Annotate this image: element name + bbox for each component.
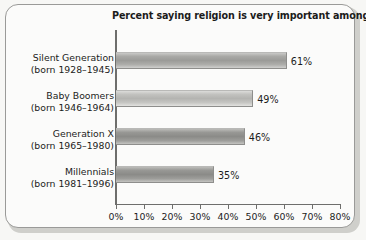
bar-silent-generation bbox=[116, 52, 287, 69]
bar-generation-x bbox=[116, 128, 245, 145]
x-axis-tick bbox=[172, 205, 173, 209]
category-label-millennials: Millennials (born 1981–1996) bbox=[0, 166, 114, 189]
category-label-line1: Baby Boomers bbox=[46, 90, 114, 101]
x-axis-tick-label: 80% bbox=[323, 211, 357, 222]
bar-value-millennials: 35% bbox=[218, 170, 239, 181]
bar-value-generation-x: 46% bbox=[249, 132, 270, 143]
category-label-generation-x: Generation X (born 1965–1980) bbox=[0, 128, 114, 151]
category-label-line2: (born 1981–1996) bbox=[0, 178, 114, 190]
x-axis-tick bbox=[312, 205, 313, 209]
x-axis-tick bbox=[284, 205, 285, 209]
category-label-line1: Silent Generation bbox=[33, 52, 114, 63]
x-axis-tick bbox=[340, 205, 341, 209]
category-label-line1: Generation X bbox=[53, 128, 114, 139]
chart-title: Percent saying religion is very importan… bbox=[112, 10, 352, 21]
x-axis-tick bbox=[144, 205, 145, 209]
x-axis-tick bbox=[200, 205, 201, 209]
category-label-baby-boomers: Baby Boomers (born 1946–1964) bbox=[0, 90, 114, 113]
category-label-line1: Millennials bbox=[65, 166, 114, 177]
category-label-line2: (born 1965–1980) bbox=[0, 140, 114, 152]
bar-value-baby-boomers: 49% bbox=[257, 94, 278, 105]
x-axis-tick bbox=[116, 205, 117, 209]
x-axis-tick bbox=[256, 205, 257, 209]
plot-area: Percent saying religion is very importan… bbox=[0, 0, 366, 240]
category-label-line2: (born 1946–1964) bbox=[0, 102, 114, 114]
bar-millennials bbox=[116, 166, 214, 183]
category-label-line2: (born 1928–1945) bbox=[0, 64, 114, 76]
category-label-silent-generation: Silent Generation (born 1928–1945) bbox=[0, 52, 114, 75]
x-axis-tick bbox=[228, 205, 229, 209]
chart-figure: Percent saying religion is very importan… bbox=[0, 0, 366, 240]
bar-value-silent-generation: 61% bbox=[291, 56, 312, 67]
bar-baby-boomers bbox=[116, 90, 253, 107]
